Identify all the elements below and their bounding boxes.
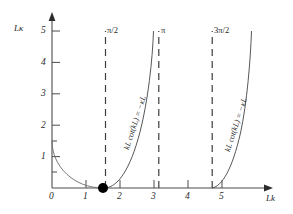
x-tick-label-3: 3	[151, 191, 156, 201]
y-tick-label-5: 5	[41, 25, 46, 35]
y-tick-label-2: 2	[41, 120, 46, 130]
asymptote-label-3pi-over-2: 3π/2	[214, 25, 229, 35]
asymptote-label-pi: π	[161, 25, 165, 35]
curve-quarter-circle	[52, 141, 103, 188]
y-tick-label-3: 3	[41, 88, 46, 98]
x-tick-label-5: 5	[219, 191, 224, 201]
x-axis-label: Lk	[266, 193, 275, 203]
curve-cotangent-branch-1	[106, 31, 154, 188]
figure-plot-container: Lκ Lk 1 2 3 4 5 0 1 2 3 4 5 π/2 π 3π/2 k…	[0, 0, 293, 214]
y-tick-label-1: 1	[41, 151, 46, 161]
x-tick-label-0: 0	[49, 191, 54, 201]
x-tick-label-1: 1	[83, 191, 88, 201]
asymptote-lines	[106, 31, 213, 188]
x-tick-label-2: 2	[117, 191, 122, 201]
y-axis-label: Lκ	[14, 23, 23, 33]
y-tick-label-4: 4	[41, 57, 46, 67]
x-tick-label-4: 4	[185, 191, 190, 201]
intersection-dot	[98, 183, 108, 193]
y-axis	[49, 12, 56, 188]
asymptote-label-pi-over-2: π/2	[107, 25, 118, 35]
